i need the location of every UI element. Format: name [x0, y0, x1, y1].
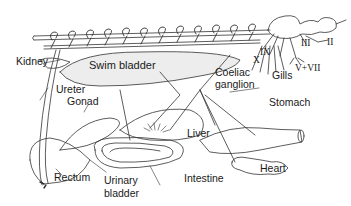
label-ganglion: ganglion: [215, 79, 255, 90]
spinal-cord: [33, 30, 271, 49]
label-nerve-iii: III: [301, 38, 311, 48]
label-nerve-ii: II: [327, 37, 333, 47]
label-ureter: Ureter: [56, 84, 85, 95]
gonad-shape: [60, 118, 120, 150]
label-liver: Liver: [187, 128, 210, 139]
label-urinary: Urinary: [104, 175, 138, 186]
label-gills: Gills: [272, 70, 292, 81]
label-nerve-x: X: [253, 55, 260, 65]
label-nerve-ix: IX: [260, 47, 270, 57]
label-gonad: Gonad: [67, 96, 99, 107]
segmental-ganglia: [50, 24, 255, 48]
label-kidney: Kidney: [16, 56, 48, 67]
anus-mark: [40, 182, 46, 188]
label-swim-bladder: Swim bladder: [89, 60, 156, 71]
label-intestine: Intestine: [184, 173, 224, 184]
label-coeliac: Coeliac: [215, 67, 250, 78]
label-bladder: bladder: [104, 188, 139, 199]
liver-rosette: [144, 123, 169, 132]
label-heart: Heart: [260, 163, 286, 174]
label-stomach: Stomach: [269, 97, 310, 108]
ureter-lines: [39, 50, 60, 185]
label-nerve-v-vii: V+VII: [295, 63, 320, 73]
label-rectum: Rectum: [54, 172, 90, 183]
anatomy-diagram: Kidney Swim bladder Ureter Gonad Coeliac…: [0, 0, 351, 206]
intestine-shape: [94, 137, 183, 168]
